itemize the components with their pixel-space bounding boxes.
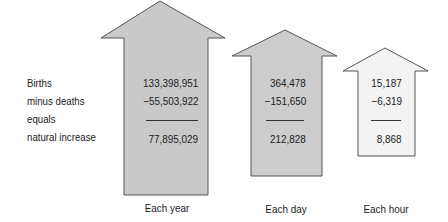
year-births-value: 133,398,951 <box>143 77 198 90</box>
year-caption: Each year <box>137 202 196 215</box>
day-births-value: 364,478 <box>270 77 306 90</box>
year-natural-increase-value: 77,895,029 <box>148 133 198 146</box>
year-deaths-value: −55,503,922 <box>143 95 198 108</box>
day-natural-increase-value: 212,828 <box>270 133 306 146</box>
day-caption: Each day <box>259 203 313 216</box>
day-rule <box>266 120 304 121</box>
hour-rule <box>371 120 401 121</box>
hour-natural-increase-value: 8,868 <box>377 133 402 146</box>
day-deaths-value: −151,650 <box>264 95 306 108</box>
hour-caption: Each hour <box>361 203 411 216</box>
arrows-graphic <box>0 0 448 222</box>
hour-deaths-value: −6,319 <box>371 95 402 108</box>
hour-births-value: 15,187 <box>372 77 402 90</box>
year-rule <box>146 120 198 121</box>
